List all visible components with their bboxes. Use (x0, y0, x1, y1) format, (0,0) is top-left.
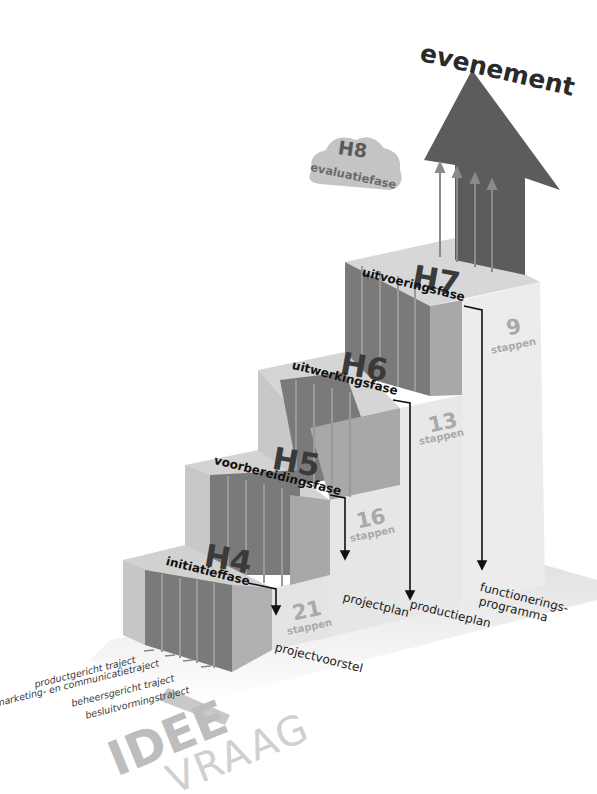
wall-h7-front (462, 282, 545, 605)
evaluation-code: H8 (337, 136, 369, 162)
